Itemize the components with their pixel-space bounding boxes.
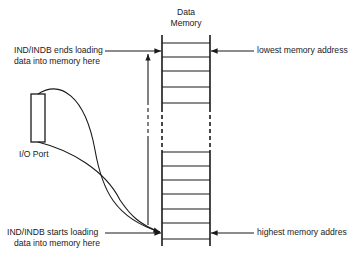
io-port-label: I/O Port (19, 149, 49, 160)
title-line-2: Memory (166, 18, 206, 29)
io-port-box (31, 94, 45, 142)
lowest-address-label: lowest memory address (257, 45, 348, 56)
starts-line-2: data into memory here (7, 238, 100, 249)
ends-line-2: data into memory here (14, 56, 103, 67)
highest-address-label: highest memory addres (257, 227, 347, 238)
starts-loading-label: IND/INDB starts loading data into memory… (7, 227, 100, 249)
io-data-paths (38, 89, 160, 232)
ends-loading-label: IND/INDB ends loading data into memory h… (14, 45, 103, 67)
title-line-1: Data (166, 7, 206, 18)
memory-column (162, 35, 210, 246)
starts-line-1: IND/INDB starts loading (7, 227, 100, 238)
memory-cells (162, 43, 210, 239)
memory-diagram (0, 0, 364, 258)
ends-line-1: IND/INDB ends loading (14, 45, 103, 56)
diagram-title: Data Memory (166, 7, 206, 29)
